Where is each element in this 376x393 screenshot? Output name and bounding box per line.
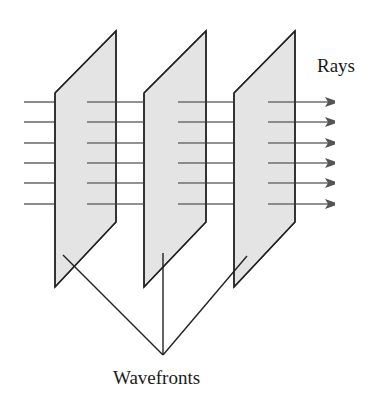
wavefront-3 bbox=[234, 31, 295, 287]
wavefront-diagram: Rays Wavefronts bbox=[0, 0, 376, 393]
wavefronts-label: Wavefronts bbox=[113, 367, 200, 389]
rays-label: Rays bbox=[317, 55, 355, 77]
wavefront-2 bbox=[144, 31, 206, 287]
wavefront-1 bbox=[55, 31, 116, 287]
pointer-line-3 bbox=[163, 256, 247, 355]
